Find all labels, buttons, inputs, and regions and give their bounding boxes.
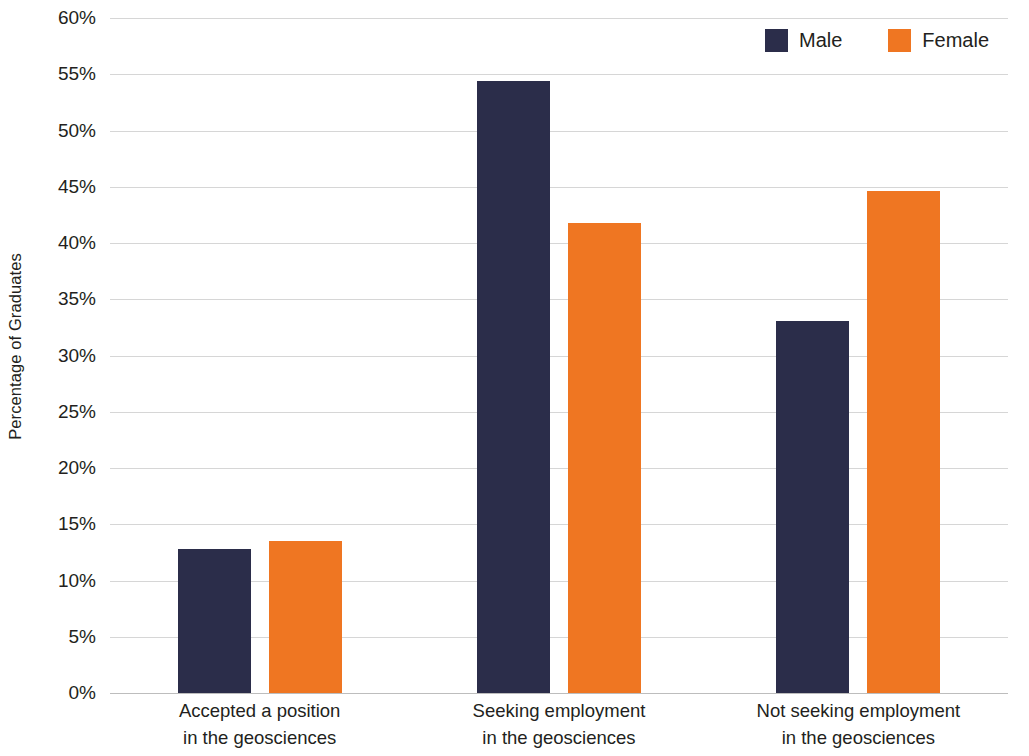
y-axis-tick-label: 60%: [58, 7, 96, 29]
legend-item-male[interactable]: Male: [765, 29, 842, 52]
y-axis-tick-label: 40%: [58, 232, 96, 254]
plot-area: [110, 18, 1008, 693]
bar-male-2: [776, 321, 849, 693]
y-axis-tick-label: 30%: [58, 345, 96, 367]
chart-legend: MaleFemale: [765, 29, 989, 52]
y-axis-tick-label: 55%: [58, 63, 96, 85]
bar-male-0: [178, 549, 251, 693]
y-axis-tick-label: 35%: [58, 288, 96, 310]
y-axis-tick-label: 5%: [69, 626, 96, 648]
bar-male-1: [477, 81, 550, 693]
y-axis-tick-labels: 0%5%10%15%20%25%30%35%40%45%50%55%60%: [28, 0, 104, 711]
y-axis-tick-label: 45%: [58, 176, 96, 198]
y-axis-tick-label: 25%: [58, 401, 96, 423]
category-label-line: Not seeking employment: [709, 697, 1008, 724]
legend-label: Female: [922, 29, 989, 52]
y-axis-tick-label: 0%: [69, 682, 96, 704]
x-axis-category-labels: Accepted a positionin the geosciencesSee…: [110, 697, 1008, 756]
bar-chart: Percentage of Graduates 0%5%10%15%20%25%…: [0, 0, 1029, 756]
y-axis-title: Percentage of Graduates: [0, 0, 30, 693]
category-label-line: Accepted a position: [110, 697, 409, 724]
bar-groups: [110, 18, 1008, 693]
y-axis-title-text: Percentage of Graduates: [6, 253, 25, 440]
category-label-line: Seeking employment: [409, 697, 708, 724]
category-label-line: in the geosciences: [110, 724, 409, 751]
y-axis-tick-label: 50%: [58, 120, 96, 142]
legend-swatch-icon: [888, 29, 911, 52]
bar-female-0: [269, 541, 342, 693]
legend-swatch-icon: [765, 29, 788, 52]
gridline: [110, 693, 1008, 694]
bar-female-2: [867, 191, 940, 693]
y-axis-tick-label: 20%: [58, 457, 96, 479]
category-label-line: in the geosciences: [709, 724, 1008, 751]
category-label-line: in the geosciences: [409, 724, 708, 751]
bar-female-1: [568, 223, 641, 693]
legend-label: Male: [799, 29, 842, 52]
y-axis-tick-label: 10%: [58, 570, 96, 592]
x-axis-category-label: Seeking employmentin the geosciences: [409, 697, 708, 751]
x-axis-category-label: Not seeking employmentin the geosciences: [709, 697, 1008, 751]
y-axis-tick-label: 15%: [58, 513, 96, 535]
legend-item-female[interactable]: Female: [888, 29, 989, 52]
x-axis-category-label: Accepted a positionin the geosciences: [110, 697, 409, 751]
